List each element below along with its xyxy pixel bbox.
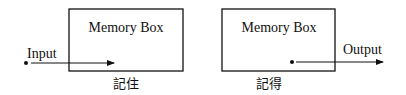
memory-diagram: Memory Box Input 記住 Memory Box Output 記得 [0,0,406,95]
left-box-label: Memory Box [88,20,163,35]
output-label: Output [343,42,382,57]
left-caption: 記住 [113,76,139,91]
input-dot [24,61,28,65]
right-box-label: Memory Box [241,20,316,35]
input-label: Input [27,46,57,61]
right-caption: 記得 [256,76,282,91]
output-dot [290,60,294,64]
left-memory-box: Memory Box [69,9,183,71]
